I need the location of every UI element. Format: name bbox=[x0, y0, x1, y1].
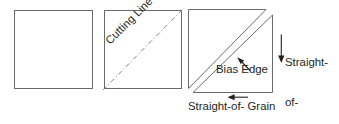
sog-vertical-line-1: Straight- bbox=[285, 56, 328, 69]
cutting-line-diagonal bbox=[103, 8, 184, 90]
down-arrow-icon bbox=[278, 35, 284, 64]
straight-of-grain-horizontal-label: Straight-of- Grain bbox=[188, 100, 275, 113]
lower-right-triangle bbox=[193, 15, 273, 93]
straight-of-grain-vertical-label: Straight- of- Grain bbox=[285, 29, 328, 124]
plain-square-panel bbox=[15, 11, 93, 89]
upper-left-triangle bbox=[189, 10, 267, 89]
plain-square-outline bbox=[15, 11, 93, 89]
bias-edge-label: Bias Edge bbox=[216, 63, 268, 76]
cutting-line-panel bbox=[103, 8, 184, 90]
bias-cutting-diagram: Cutting Line Bias Edge Straight- of- Gra… bbox=[0, 0, 339, 124]
bias-triangles-panel bbox=[189, 10, 285, 101]
sog-vertical-line-2: of- bbox=[285, 96, 328, 109]
